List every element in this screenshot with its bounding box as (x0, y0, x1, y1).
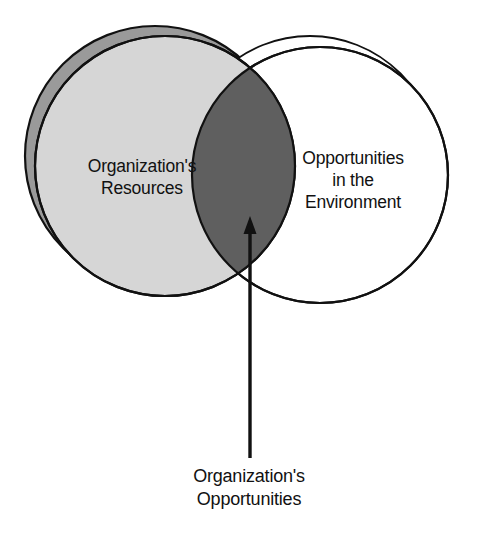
left-set-label-line1: Organization's (88, 156, 197, 176)
left-set-label-line2: Resources (101, 178, 183, 198)
right-set-label-line1: Opportunities (302, 148, 404, 168)
callout-label-line2: Opportunities (197, 489, 302, 509)
right-set-label-line3: Environment (305, 192, 401, 212)
right-set-label-line2: in the (332, 170, 374, 190)
venn-diagram-canvas: Organization's Resources Opportunities i… (0, 0, 478, 533)
callout-label-line1: Organization's (193, 466, 305, 486)
venn-diagram-root: Organization's Resources Opportunities i… (0, 0, 478, 533)
